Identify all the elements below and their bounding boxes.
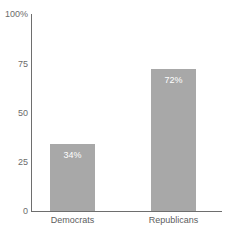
bar-chart: 100% 75 50 25 0 34% 72% Democrats Republ…	[0, 0, 231, 238]
y-axis-line	[31, 14, 32, 212]
category-label-democrats: Democrats	[32, 215, 113, 226]
x-axis-line	[31, 211, 222, 212]
y-tick-label-0: 0	[2, 206, 28, 216]
category-label-republicans: Republicans	[131, 215, 216, 226]
bar-democrats: 34%	[50, 144, 95, 211]
y-tick-label-100: 100%	[2, 9, 28, 19]
y-axis-labels: 100% 75 50 25 0	[0, 0, 28, 238]
bar-value-democrats: 34%	[50, 150, 95, 160]
y-tick-label-50: 50	[2, 108, 28, 118]
bar-value-republicans: 72%	[151, 75, 196, 85]
y-tick-label-25: 25	[2, 157, 28, 167]
y-tick-label-75: 75	[2, 59, 28, 69]
bar-republicans: 72%	[151, 69, 196, 211]
